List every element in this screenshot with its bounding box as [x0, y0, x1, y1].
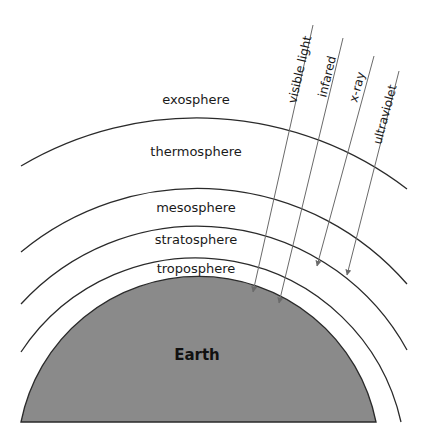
- label-visible-light: visible light: [285, 34, 314, 104]
- label-stratosphere: stratosphere: [155, 232, 238, 247]
- label-troposphere: troposphere: [157, 261, 236, 276]
- label-mesosphere: mesosphere: [156, 200, 236, 215]
- label-x-ray: x-ray: [346, 70, 368, 103]
- label-ultraviolet: ultraviolet: [370, 83, 399, 146]
- label-infared: infared: [315, 54, 339, 98]
- label-thermosphere: thermosphere: [150, 144, 241, 159]
- atmosphere-diagram: exosphere thermosphere mesosphere strato…: [0, 0, 429, 439]
- label-exosphere: exosphere: [162, 92, 229, 107]
- label-earth: Earth: [174, 346, 220, 364]
